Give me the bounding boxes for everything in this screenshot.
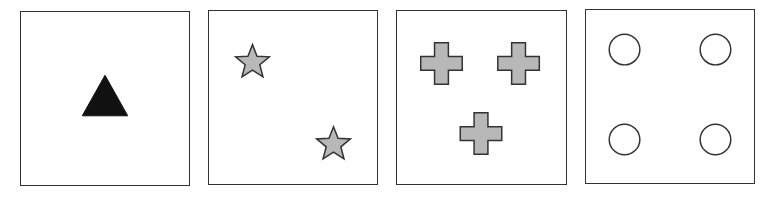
circle-icon [700,124,731,155]
panel-3 [396,10,567,185]
circle-icon [700,34,731,65]
star-icon [317,127,351,159]
circles-group [586,10,754,183]
cross-icon [460,113,502,155]
circle-icon [609,34,640,65]
star-icon [236,45,270,77]
panel-4 [585,9,755,184]
stars-group [209,11,377,184]
crosses-group [397,11,566,184]
cross-icon [421,43,463,85]
panel-1 [20,11,190,186]
panel-2 [208,10,378,185]
triangle-icon [21,12,189,185]
circle-icon [609,124,640,155]
cross-icon [498,43,540,85]
